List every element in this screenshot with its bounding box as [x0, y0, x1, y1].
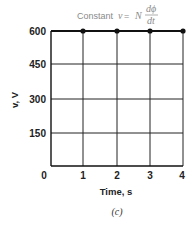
svg-text:1: 1: [80, 170, 86, 181]
svg-text:dt: dt: [147, 15, 155, 26]
svg-text:N: N: [134, 10, 143, 21]
figure-caption: (c): [111, 206, 123, 218]
y-axis-label: v, V: [9, 91, 20, 108]
data-point: [180, 28, 185, 33]
chart-title: Constant v = N dϕ dt: [77, 3, 158, 26]
data-point: [114, 28, 119, 33]
svg-text:150: 150: [29, 128, 46, 139]
x-tick-labels: 0 1 2 3 4: [41, 170, 185, 181]
grid: [51, 31, 183, 166]
svg-text:3: 3: [147, 170, 153, 181]
x-axis-label: Time, s: [100, 186, 133, 197]
svg-text:600: 600: [29, 26, 46, 37]
svg-text:4: 4: [179, 170, 185, 181]
svg-text:Constant: Constant: [77, 11, 114, 21]
svg-text:v: v: [118, 10, 123, 21]
svg-text:dϕ: dϕ: [146, 3, 156, 14]
svg-text:300: 300: [29, 94, 46, 105]
svg-text:=: =: [124, 11, 129, 21]
svg-text:2: 2: [114, 170, 120, 181]
svg-text:450: 450: [29, 59, 46, 70]
data-series-v: [51, 28, 186, 33]
y-tick-labels: 600 450 300 150: [29, 26, 46, 139]
chart: Constant v = N dϕ dt 600 450 300 150: [0, 0, 193, 227]
svg-text:0: 0: [41, 170, 47, 181]
data-point: [147, 28, 152, 33]
data-point: [80, 28, 85, 33]
